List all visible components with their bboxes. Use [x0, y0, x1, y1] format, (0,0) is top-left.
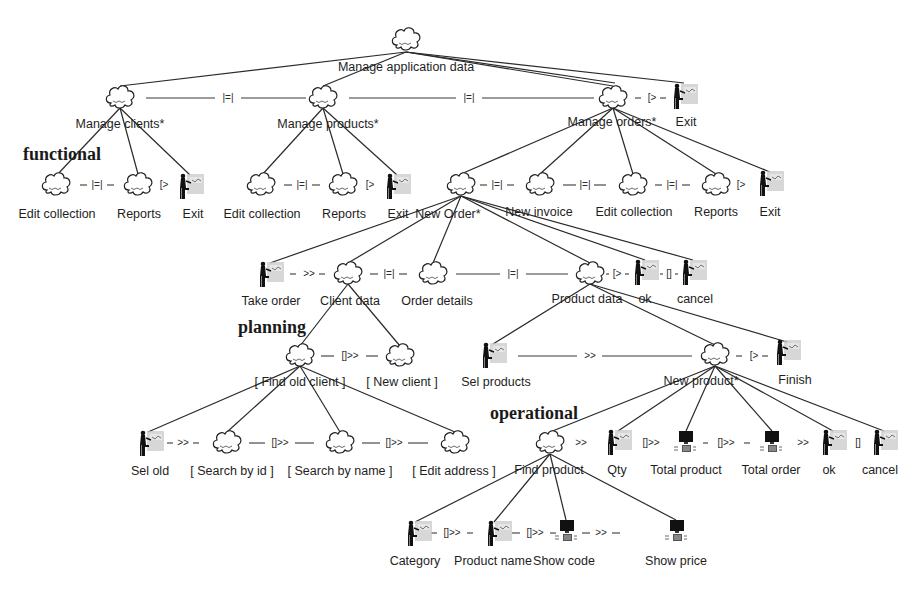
task-node-find-old-client[interactable]: [ Find old client ]	[254, 344, 345, 389]
operator-label: []	[855, 437, 861, 448]
node-label: Total product	[650, 463, 722, 477]
user-at-desk-icon	[180, 174, 204, 199]
task-node-manage-clients[interactable]: Manage clients*	[76, 86, 165, 131]
tree-edges	[56, 52, 884, 522]
layer-label-planning: planning	[238, 317, 306, 337]
task-node-manage-products[interactable]: Manage products*	[277, 86, 379, 131]
node-label: ok	[638, 292, 652, 306]
task-node-products-reports[interactable]: Reports	[322, 173, 366, 221]
node-label: Edit collection	[223, 207, 300, 221]
user-at-desk-icon	[608, 430, 632, 455]
operator-label: |=|	[383, 268, 394, 279]
task-node-exit-top[interactable]: Exit	[674, 84, 698, 129]
node-label: Sel old	[131, 464, 169, 478]
operator-label: [>	[648, 92, 657, 103]
task-node-new-order[interactable]: New Order*	[415, 173, 480, 221]
task-nodes: Manage application data Manage clients* …	[18, 28, 898, 568]
node-label: Sel products	[461, 375, 530, 389]
task-node-clients-exit[interactable]: Exit	[180, 174, 204, 221]
node-label: Take order	[241, 294, 300, 308]
node-label: New Order*	[415, 207, 480, 221]
node-label: Reports	[117, 207, 161, 221]
node-label: Client data	[320, 294, 380, 308]
cloud-icon	[106, 86, 133, 108]
task-node-sel-old[interactable]: Sel old	[131, 431, 169, 478]
task-node-qty[interactable]: Qty	[607, 430, 632, 477]
task-node-sel-products[interactable]: Sel products	[461, 343, 530, 389]
cloud-icon	[392, 28, 419, 50]
task-node-products-edit-collection[interactable]: Edit collection	[223, 173, 300, 221]
operator-label: []>>	[526, 527, 543, 538]
node-label: Order details	[401, 294, 473, 308]
node-label: New invoice	[505, 205, 572, 219]
cloud-icon	[329, 173, 356, 195]
task-node-orders-edit-collection[interactable]: Edit collection	[595, 173, 672, 219]
operator-label: |=|	[463, 92, 474, 103]
task-node-cancel-product[interactable]: cancel	[862, 430, 898, 477]
task-node-search-by-name[interactable]: [ Search by name ]	[288, 431, 393, 478]
cloud-icon	[213, 431, 240, 453]
task-node-ok-order[interactable]: ok	[635, 260, 659, 306]
operator-label: |=|	[507, 268, 518, 279]
user-at-desk-icon	[674, 84, 698, 109]
node-label: New product*	[663, 374, 738, 388]
task-node-product-name[interactable]: Product name	[454, 521, 532, 568]
task-node-orders-exit[interactable]: Exit	[760, 171, 784, 219]
node-label: Find product	[514, 463, 584, 477]
node-label: [ Edit address ]	[412, 464, 495, 478]
task-node-root[interactable]: Manage application data	[338, 28, 474, 74]
node-label: Product data	[552, 292, 623, 306]
task-node-total-product[interactable]: Total product	[650, 431, 722, 477]
computer-icon	[665, 520, 687, 541]
task-node-show-price[interactable]: Show price	[645, 520, 707, 568]
cloud-icon	[334, 262, 361, 284]
operator-label: []>>	[271, 437, 288, 448]
operator-label: |=|	[296, 179, 307, 190]
task-node-finish[interactable]: Finish	[777, 340, 812, 387]
operator-label: [>	[750, 350, 759, 361]
operator-label: []>>	[385, 437, 402, 448]
user-at-desk-icon	[635, 260, 659, 285]
node-label: cancel	[862, 463, 898, 477]
task-node-manage-orders[interactable]: Manage orders*	[568, 86, 657, 129]
task-node-new-invoice[interactable]: New invoice	[505, 173, 572, 219]
task-node-total-order[interactable]: Total order	[741, 431, 800, 477]
node-label: Show price	[645, 554, 707, 568]
node-label: Reports	[322, 207, 366, 221]
layer-label-functional: functional	[23, 144, 101, 164]
task-node-take-order[interactable]: Take order	[241, 262, 300, 308]
node-label: Edit collection	[18, 207, 95, 221]
cloud-icon	[536, 431, 563, 453]
node-label: Manage orders*	[568, 115, 657, 129]
operator-label: |=|	[222, 92, 233, 103]
operator-label: [>	[737, 179, 746, 190]
node-label: Exit	[760, 205, 781, 219]
node-label: Category	[390, 554, 441, 568]
cloud-icon	[124, 173, 151, 195]
user-at-desk-icon	[488, 521, 512, 546]
task-node-new-client[interactable]: [ New client ]	[366, 344, 438, 389]
task-node-cancel-order[interactable]: cancel	[677, 260, 713, 306]
task-node-edit-address[interactable]: [ Edit address ]	[412, 431, 495, 478]
task-node-category[interactable]: Category	[390, 521, 441, 568]
node-label: Exit	[183, 207, 204, 221]
task-node-new-product[interactable]: New product*	[663, 343, 738, 388]
operator-label: |=|	[666, 179, 677, 190]
task-node-products-exit[interactable]: Exit	[387, 174, 411, 221]
node-label: Product name	[454, 554, 532, 568]
task-node-clients-reports[interactable]: Reports	[117, 173, 161, 221]
task-node-clients-edit-collection[interactable]: Edit collection	[18, 173, 95, 221]
task-node-orders-reports[interactable]: Reports	[694, 173, 738, 219]
task-node-order-details[interactable]: Order details	[401, 262, 473, 308]
cloud-icon	[309, 86, 336, 108]
operator-label: [>	[613, 268, 622, 279]
cloud-icon	[701, 343, 728, 365]
task-node-search-by-id[interactable]: [ Search by id ]	[190, 431, 273, 478]
cloud-icon	[286, 344, 313, 366]
node-label: Finish	[778, 373, 811, 387]
task-node-client-data[interactable]: Client data	[320, 262, 380, 308]
node-label: Show code	[533, 554, 595, 568]
task-node-ok-product[interactable]: ok	[822, 430, 847, 477]
node-label: cancel	[677, 292, 713, 306]
computer-icon	[760, 431, 782, 452]
